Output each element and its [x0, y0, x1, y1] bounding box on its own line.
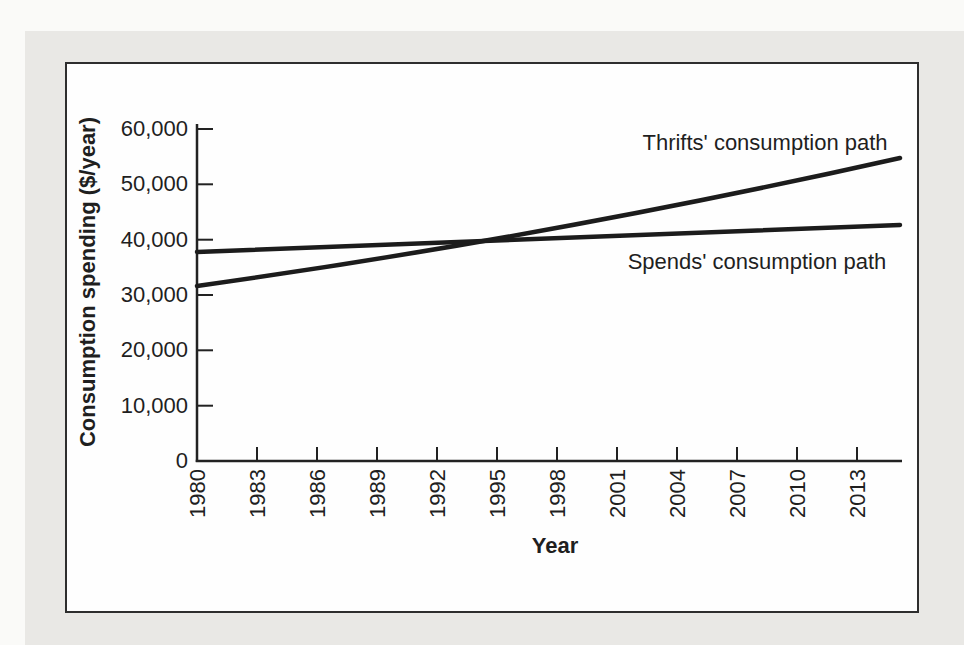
y-tick-label-40000: 40,000: [121, 227, 188, 252]
x-tick-label-2004: 2004: [665, 469, 690, 518]
y-tick-label-30000: 30,000: [121, 282, 188, 307]
x-tick-label-2010: 2010: [785, 469, 810, 518]
x-tick-label-1980: 1980: [185, 469, 210, 518]
x-tick-label-1986: 1986: [305, 469, 330, 518]
y-axis-title: Consumption spending ($/year): [75, 117, 100, 447]
x-tick-label-2007: 2007: [725, 469, 750, 518]
y-axis-tick-labels: 60,000 50,000 40,000 30,000 20,000 10,00…: [121, 116, 188, 473]
x-tick-label-1998: 1998: [545, 469, 570, 518]
x-tick-label-1995: 1995: [485, 469, 510, 518]
x-axis-title: Year: [532, 533, 579, 558]
y-tick-label-60000: 60,000: [121, 116, 188, 141]
x-axis-tick-labels: 1980 1983 1986 1989 1992 1995 1998 2001 …: [185, 469, 870, 518]
x-tick-label-2013: 2013: [845, 469, 870, 518]
x-tick-label-1992: 1992: [425, 469, 450, 518]
consumption-paths-chart: 60,000 50,000 40,000 30,000 20,000 10,00…: [67, 64, 917, 611]
y-tick-label-10000: 10,000: [121, 393, 188, 418]
thrifts-line-label: Thrifts' consumption path: [642, 130, 887, 155]
chart-panel: 60,000 50,000 40,000 30,000 20,000 10,00…: [65, 62, 919, 613]
y-axis-ticks: [198, 129, 213, 406]
y-tick-label-50000: 50,000: [121, 171, 188, 196]
spends-line-label: Spends' consumption path: [628, 249, 887, 274]
y-tick-label-20000: 20,000: [121, 337, 188, 362]
x-axis-ticks: [257, 447, 857, 460]
x-tick-label-2001: 2001: [605, 469, 630, 518]
x-tick-label-1989: 1989: [365, 469, 390, 518]
x-tick-label-1983: 1983: [245, 469, 270, 518]
